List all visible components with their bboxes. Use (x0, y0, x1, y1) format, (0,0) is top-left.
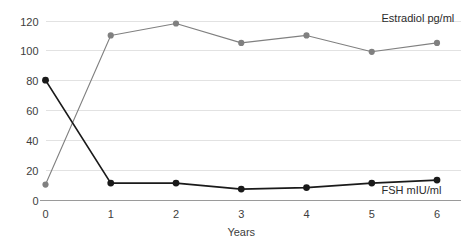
y-tick-label-120: 120 (20, 16, 38, 28)
x-tick-label-1: 1 (108, 208, 114, 220)
data-point-fsh-2 (173, 180, 180, 187)
data-point-fsh-6 (434, 177, 441, 184)
data-point-fsh-3 (238, 186, 245, 193)
x-tick-label-4: 4 (303, 208, 309, 220)
series-label-estradiol: Estradiol pg/ml (382, 12, 455, 24)
data-point-estradiol-6 (434, 40, 440, 46)
x-axis-tick-labels: 0123456 (42, 208, 440, 220)
series-markers-group (42, 20, 440, 192)
y-tick-label-20: 20 (26, 165, 38, 177)
data-point-estradiol-1 (108, 32, 114, 38)
data-point-fsh-0 (42, 77, 49, 84)
y-tick-label-0: 0 (32, 195, 38, 207)
series-line-fsh (46, 80, 438, 189)
x-tick-label-5: 5 (369, 208, 375, 220)
data-point-fsh-5 (368, 180, 375, 187)
x-tick-label-0: 0 (42, 208, 48, 220)
line-chart: 020406080100120 0123456 Years Estradiol … (0, 0, 462, 241)
series-line-estradiol (46, 23, 438, 184)
data-point-fsh-4 (303, 184, 310, 191)
y-tick-label-100: 100 (20, 45, 38, 57)
y-tick-label-40: 40 (26, 135, 38, 147)
series-lines-group (46, 23, 438, 189)
y-axis-tick-labels: 020406080100120 (20, 16, 38, 207)
data-point-estradiol-0 (42, 181, 48, 187)
series-label-fsh: FSH mIU/ml (382, 184, 442, 196)
y-tick-label-60: 60 (26, 105, 38, 117)
chart-canvas: 020406080100120 0123456 Years Estradiol … (0, 0, 462, 241)
x-axis-title: Years (227, 226, 255, 238)
data-point-estradiol-4 (303, 32, 309, 38)
data-point-estradiol-5 (369, 49, 375, 55)
x-tick-label-2: 2 (173, 208, 179, 220)
y-tick-label-80: 80 (26, 75, 38, 87)
series-annotations-group: Estradiol pg/mlFSH mIU/ml (382, 12, 455, 196)
x-axis-title-group: Years (227, 226, 255, 238)
data-point-estradiol-3 (238, 40, 244, 46)
x-tick-label-3: 3 (238, 208, 244, 220)
x-tick-label-6: 6 (434, 208, 440, 220)
data-point-estradiol-2 (173, 20, 179, 26)
gridlines-group (46, 22, 462, 171)
data-point-fsh-1 (107, 180, 114, 187)
